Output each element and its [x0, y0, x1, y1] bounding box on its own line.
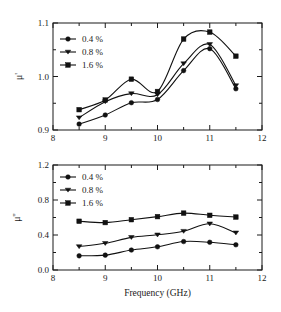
x-tick-label: 12: [258, 273, 267, 283]
data-point-circle: [77, 254, 82, 259]
x-tick-label: 8: [51, 133, 56, 143]
legend-label: 1.6 %: [82, 198, 104, 208]
data-point-square: [103, 220, 108, 225]
data-point-circle: [155, 245, 160, 250]
figure-container: 891011120.91.01.1μ'0.4 %0.8 %1.6 % 89101…: [0, 0, 281, 312]
data-point-square: [129, 77, 134, 82]
x-tick-label: 9: [103, 133, 108, 143]
data-point-square: [207, 213, 212, 218]
y-tick-label: 0.9: [38, 125, 50, 135]
legend-marker-square: [66, 201, 71, 206]
data-point-square: [234, 54, 239, 59]
mu-double-prime-panel: 891011120.00.40.81.2μ''Frequency (GHz)0.…: [0, 152, 281, 312]
legend-marker-circle: [66, 175, 71, 180]
data-point-triangle: [233, 231, 239, 235]
data-point-circle: [103, 253, 108, 258]
data-point-circle: [103, 113, 108, 118]
data-point-square: [77, 107, 82, 112]
legend-marker-circle: [66, 37, 71, 42]
data-point-circle: [77, 122, 82, 127]
data-point-square: [77, 219, 82, 224]
legend-label: 0.4 %: [82, 34, 104, 44]
data-point-circle: [155, 97, 160, 102]
mu-prime-chart: 891011120.91.01.1μ'0.4 %0.8 %1.6 %: [0, 0, 281, 152]
data-point-circle: [207, 240, 212, 245]
legend-label: 0.8 %: [82, 47, 104, 57]
mu-double-prime-chart: 891011120.00.40.81.2μ''Frequency (GHz)0.…: [0, 152, 281, 312]
x-tick-label: 11: [205, 273, 214, 283]
data-point-circle: [207, 46, 212, 51]
data-point-square: [155, 89, 160, 94]
data-point-square: [103, 98, 108, 103]
mu-prime-panel: 891011120.91.01.1μ'0.4 %0.8 %1.6 %: [0, 0, 281, 152]
data-point-square: [155, 214, 160, 219]
y-tick-label: 0.8: [38, 195, 50, 205]
y-tick-label: 1.1: [38, 18, 49, 28]
data-point-circle: [129, 248, 134, 253]
y-tick-label: 0.4: [38, 230, 50, 240]
x-tick-label: 10: [153, 273, 163, 283]
data-point-square: [234, 215, 239, 220]
x-tick-label: 10: [153, 133, 163, 143]
data-point-square: [181, 37, 186, 42]
data-point-circle: [181, 68, 186, 73]
data-point-circle: [129, 100, 134, 105]
legend-label: 1.6 %: [82, 60, 104, 70]
y-axis-title: μ'': [12, 213, 22, 222]
y-tick-label: 1.0: [38, 72, 50, 82]
data-point-square: [129, 217, 134, 222]
legend-marker-square: [66, 63, 71, 68]
data-point-square: [181, 211, 186, 216]
y-axis-title: μ': [14, 73, 24, 80]
data-point-triangle: [76, 116, 82, 120]
data-point-circle: [181, 239, 186, 244]
data-point-circle: [234, 243, 239, 248]
legend-label: 0.4 %: [82, 172, 104, 182]
y-tick-label: 1.2: [38, 160, 49, 170]
x-tick-label: 12: [258, 133, 267, 143]
x-tick-label: 9: [103, 273, 108, 283]
x-axis-title: Frequency (GHz): [124, 288, 191, 299]
x-tick-label: 8: [51, 273, 56, 283]
data-point-square: [207, 30, 212, 35]
legend-label: 0.8 %: [82, 185, 104, 195]
y-tick-label: 0.0: [38, 265, 50, 275]
x-tick-label: 11: [205, 133, 214, 143]
